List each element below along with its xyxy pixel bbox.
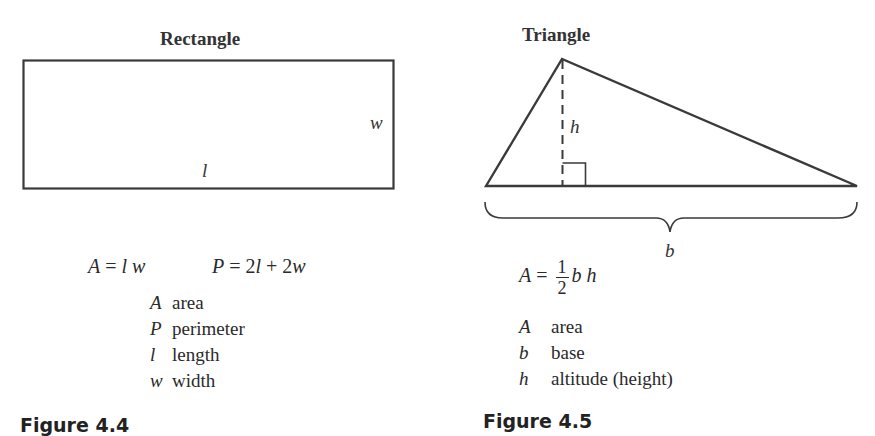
fraction-one-half: 12 <box>556 258 569 297</box>
triangle-base-label: b <box>665 240 675 262</box>
triangle-legend: Aarea bbase haltitude (height) <box>519 314 673 392</box>
figure-caption-4-5: Figure 4.5 <box>483 410 592 432</box>
legend-item: bbase <box>519 340 673 366</box>
legend-item: Aarea <box>519 314 673 340</box>
base-brace <box>485 202 857 232</box>
triangle-area-formula: A = 12b h <box>519 258 597 297</box>
triangle-height-label: h <box>570 116 580 138</box>
legend-item: haltitude (height) <box>519 366 673 392</box>
